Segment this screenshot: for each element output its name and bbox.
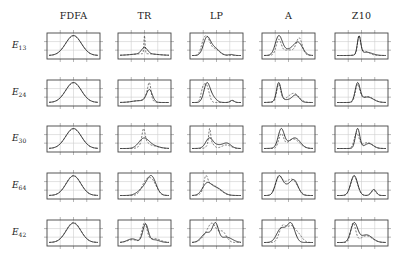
panel-lp-e64 (190, 173, 243, 199)
panel-a-e13 (262, 33, 315, 59)
column-title-z10: Z10 (332, 10, 392, 21)
row-label-e24: E24 (12, 87, 42, 98)
panel-tr-e42 (118, 220, 171, 246)
panel-z10-e30 (335, 126, 388, 152)
row-label-e64: E64 (12, 180, 42, 191)
panel-z10-e42 (335, 220, 388, 246)
panel-lp-e30 (190, 126, 243, 152)
panel-fdfa-e30 (47, 126, 100, 152)
row-label-e13: E13 (12, 40, 42, 51)
panel-lp-e24 (190, 80, 243, 106)
panel-z10-e24 (335, 80, 388, 106)
panel-lp-e42 (190, 220, 243, 246)
row-label-e30: E30 (12, 133, 42, 144)
panel-a-e42 (262, 220, 315, 246)
panel-fdfa-e42 (47, 220, 100, 246)
column-title-tr: TR (115, 10, 175, 21)
row-label-e42: E42 (12, 227, 42, 238)
panel-lp-e13 (190, 33, 243, 59)
panel-a-e64 (262, 173, 315, 199)
panel-fdfa-e64 (47, 173, 100, 199)
panel-fdfa-e24 (47, 80, 100, 106)
panel-a-e24 (262, 80, 315, 106)
panel-tr-e24 (118, 80, 171, 106)
panel-fdfa-e13 (47, 33, 100, 59)
column-title-a: A (259, 10, 319, 21)
column-title-lp: LP (187, 10, 247, 21)
column-title-fdfa: FDFA (44, 10, 104, 21)
panel-tr-e64 (118, 173, 171, 199)
panel-a-e30 (262, 126, 315, 152)
panel-z10-e13 (335, 33, 388, 59)
panel-tr-e13 (118, 33, 171, 59)
panel-tr-e30 (118, 126, 171, 152)
panel-z10-e64 (335, 173, 388, 199)
